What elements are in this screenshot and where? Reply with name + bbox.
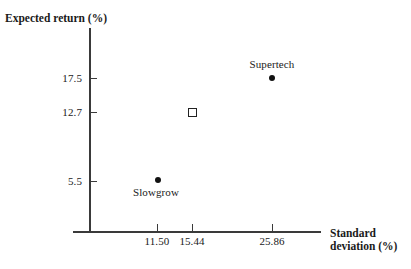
y-axis-title: Expected return (%) xyxy=(5,12,107,25)
y-tick-mark-2 xyxy=(89,181,97,182)
data-point-supertech xyxy=(269,75,275,81)
x-axis-line xyxy=(73,231,321,233)
y-tick-label-0: 17.5 xyxy=(22,73,82,84)
x-axis-title-line-1: Standard xyxy=(330,227,410,240)
x-axis-title: Standard deviation (%) xyxy=(330,227,410,252)
y-tick-mark-1 xyxy=(89,112,97,113)
y-tick-label-2: 5.5 xyxy=(22,176,82,187)
x-tick-mark-0 xyxy=(157,224,158,232)
x-tick-label-2: 25.86 xyxy=(242,236,302,247)
data-point-label-supertech: Supertech xyxy=(212,59,332,70)
y-axis-line xyxy=(89,28,91,233)
data-point-label-slowgrow: Slowgrow xyxy=(96,187,216,198)
x-tick-label-1: 15.44 xyxy=(162,236,222,247)
x-axis-title-line-2: deviation (%) xyxy=(330,240,410,253)
y-tick-label-1: 12.7 xyxy=(22,107,82,118)
data-point-slowgrow xyxy=(155,177,161,183)
y-tick-mark-0 xyxy=(89,78,97,79)
scatter-chart: Expected return (%) 17.5 12.7 5.5 11.50 … xyxy=(0,0,411,269)
x-tick-mark-2 xyxy=(272,224,273,232)
x-tick-mark-1 xyxy=(192,224,193,232)
data-point-portfolio xyxy=(188,108,197,117)
